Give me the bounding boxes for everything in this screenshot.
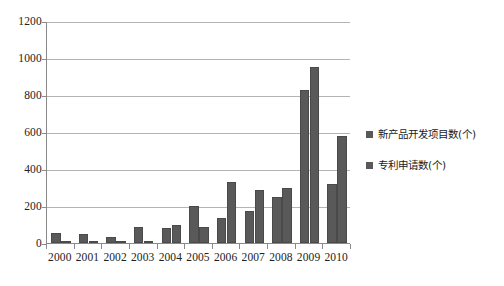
bar xyxy=(89,241,99,243)
x-tick-label: 2000 xyxy=(48,251,71,264)
x-tick-mark xyxy=(239,244,240,249)
x-tick-label: 2007 xyxy=(242,251,265,264)
bar-group xyxy=(213,22,241,243)
x-axis: 2000200120022003200420052006200720082009… xyxy=(46,251,350,269)
bar-chart: 020040060080010001200 200020012002200320… xyxy=(0,0,504,286)
chart-legend: 新产品开发项目数(个)专利申请数(个) xyxy=(366,128,504,190)
y-tick-label: 1000 xyxy=(2,53,42,65)
y-tick-label: 0 xyxy=(2,238,42,250)
x-tick-label: 2005 xyxy=(186,251,209,264)
bar xyxy=(310,67,320,243)
bar xyxy=(144,241,154,243)
bar xyxy=(189,206,199,243)
bar xyxy=(172,225,182,244)
bars-layer xyxy=(47,22,350,243)
bar-pair xyxy=(134,22,154,243)
bar-pair xyxy=(162,22,182,243)
bar xyxy=(282,188,292,243)
bar-group xyxy=(268,22,296,243)
bar-pair xyxy=(327,22,347,243)
x-tick-mark xyxy=(157,244,158,249)
y-tick-label: 200 xyxy=(2,201,42,213)
x-tick-label: 2004 xyxy=(159,251,182,264)
y-axis: 020040060080010001200 xyxy=(0,22,42,244)
bar-group xyxy=(102,22,130,243)
bar xyxy=(272,197,282,243)
x-tick-mark xyxy=(74,244,75,249)
bar xyxy=(300,90,310,243)
x-axis-ticks xyxy=(46,244,350,249)
bar-pair xyxy=(300,22,320,243)
x-tick-mark xyxy=(46,244,47,249)
x-tick-mark xyxy=(322,244,323,249)
bar xyxy=(134,227,144,243)
x-tick-label: 2010 xyxy=(324,251,347,264)
bar-group xyxy=(130,22,158,243)
y-tick-label: 800 xyxy=(2,90,42,102)
x-tick-label: 2003 xyxy=(131,251,154,264)
plot-area xyxy=(46,22,350,244)
bar-pair xyxy=(106,22,126,243)
x-tick-mark xyxy=(295,244,296,249)
bar-group xyxy=(296,22,324,243)
legend-item-label: 专利申请数(个) xyxy=(378,159,446,171)
x-tick-mark xyxy=(129,244,130,249)
y-tick-label: 400 xyxy=(2,164,42,176)
bar-group xyxy=(323,22,351,243)
bar xyxy=(199,227,209,243)
y-tick-label: 1200 xyxy=(2,16,42,28)
square-swatch-icon xyxy=(366,131,373,138)
bar xyxy=(79,234,89,243)
x-tick-mark xyxy=(184,244,185,249)
x-tick-label: 2008 xyxy=(269,251,292,264)
x-tick-label: 2009 xyxy=(297,251,320,264)
x-tick-label: 2001 xyxy=(76,251,99,264)
bar xyxy=(217,218,227,243)
legend-item[interactable]: 新产品开发项目数(个) xyxy=(366,128,504,140)
bar-group xyxy=(240,22,268,243)
bar xyxy=(227,182,237,243)
legend-item-label: 新产品开发项目数(个) xyxy=(378,128,476,140)
x-tick-mark xyxy=(101,244,102,249)
bar xyxy=(51,233,61,243)
bar xyxy=(327,184,337,243)
x-tick-mark xyxy=(212,244,213,249)
bar xyxy=(116,241,126,243)
y-tick-label: 600 xyxy=(2,127,42,139)
bar-pair xyxy=(272,22,292,243)
bar-group xyxy=(158,22,186,243)
bar xyxy=(255,190,265,243)
bar-group xyxy=(185,22,213,243)
bar xyxy=(245,211,255,243)
bar-pair xyxy=(51,22,71,243)
bar xyxy=(106,237,116,243)
bar-pair xyxy=(217,22,237,243)
bar-pair xyxy=(245,22,265,243)
square-swatch-icon xyxy=(366,162,373,169)
bar-group xyxy=(75,22,103,243)
x-tick-label: 2006 xyxy=(214,251,237,264)
bar-pair xyxy=(189,22,209,243)
bar xyxy=(162,228,172,243)
x-tick-mark xyxy=(267,244,268,249)
bar xyxy=(337,136,347,243)
x-tick-label: 2002 xyxy=(103,251,126,264)
legend-item[interactable]: 专利申请数(个) xyxy=(366,159,504,171)
bar-group xyxy=(47,22,75,243)
x-tick-mark xyxy=(350,244,351,249)
bar-pair xyxy=(79,22,99,243)
bar xyxy=(61,241,71,243)
